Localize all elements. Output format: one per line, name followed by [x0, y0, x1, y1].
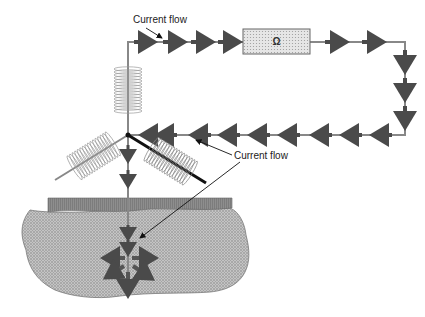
junction-node — [126, 133, 131, 138]
resistor-symbol: Ω — [243, 28, 310, 54]
ground-section — [22, 198, 249, 298]
current-flow-label-top: Current flow — [133, 14, 187, 25]
pointer-top — [146, 28, 162, 38]
pointer-middle-upper — [196, 140, 232, 155]
current-flow-label-middle: Current flow — [234, 150, 288, 161]
grounding-circuit-diagram — [0, 0, 425, 317]
